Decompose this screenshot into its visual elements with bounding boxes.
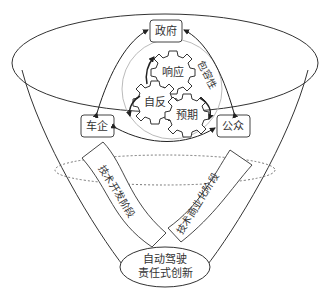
actor-car-companies-label: 车企	[86, 119, 108, 133]
gear-anticipate-label: 预期	[176, 109, 198, 122]
bottom-label-line1: 自动驾驶	[143, 252, 187, 266]
funnel-diagram: 自动驾驶 责任式创新 技术开发阶段 技术商业化阶段 响应 自反 预期 包容性 政…	[0, 0, 331, 294]
bottom-label-line2: 责任式创新	[138, 266, 193, 280]
actor-car-companies: 车企	[81, 115, 114, 137]
actor-government-label: 政府	[155, 24, 177, 38]
inclusiveness-label: 包容性	[195, 58, 220, 90]
actor-government: 政府	[150, 20, 182, 42]
gear-reflect-label: 自反	[144, 96, 166, 109]
gear-respond-label: 响应	[162, 65, 184, 79]
actor-public: 公众	[217, 115, 250, 137]
actor-public-label: 公众	[222, 120, 244, 133]
